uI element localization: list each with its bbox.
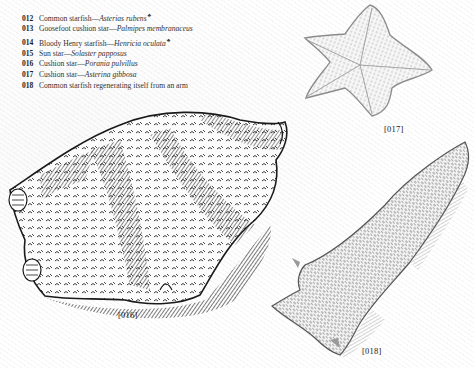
caption-number: 014 [22,38,39,49]
figure-label-017: [017] [384,124,403,134]
caption-common-name: Cushion star [39,70,77,79]
caption-latin-name: Palmipes membranaceus [117,24,193,33]
caption-item-014: 014Bloody Henry starfish—Henricia oculat… [22,35,193,49]
caption-latin-name: Henricia oculata [114,38,166,47]
caption-number: 013 [22,24,39,35]
caption-number: 016 [22,59,39,70]
caption-common-name: Common starfish regenerating itself from… [39,81,188,90]
caption-common-name: Cushion star [39,59,77,68]
caption-item-012: 012Common starfish—Asterias rubens♣ [22,10,193,24]
caption-dash: — [109,24,117,33]
caption-number: 017 [22,70,39,81]
species-status-icon: ♣ [167,37,171,43]
caption-common-name: Bloody Henry starfish [39,38,107,47]
caption-latin-name: Porania pulvillus [85,59,138,68]
figure-017-cushion-star [305,5,432,116]
caption-item-018: 018Common starfish regenerating itself f… [22,81,193,92]
caption-item-015: 015Sun star—Solaster papposus [22,49,193,60]
caption-item-017: 017Cushion star—Asterina gibbosa [22,70,193,81]
caption-number: 018 [22,81,39,92]
caption-item-013: 013Goosefoot cushion star—Palmipes membr… [22,24,193,35]
caption-list: 012Common starfish—Asterias rubens♣ 013G… [22,10,193,91]
figure-label-016: [016] [118,310,137,320]
figure-label-018: [018] [362,346,381,356]
caption-number: 012 [22,14,39,25]
caption-number: 015 [22,49,39,60]
figure-018-regenerating-starfish [272,142,468,358]
caption-latin-name: Solaster papposus [71,49,126,58]
caption-common-name: Goosefoot cushion star [39,24,109,33]
figure-016-cushion-star [9,112,287,318]
caption-item-016: 016Cushion star—Porania pulvillus [22,59,193,70]
caption-common-name: Common starfish [39,14,92,23]
caption-dash: — [92,14,100,23]
species-status-icon: ♣ [148,12,152,18]
caption-dash: — [77,70,85,79]
caption-dash: — [107,38,115,47]
caption-common-name: Sun star [39,49,64,58]
caption-dash: — [77,59,85,68]
caption-latin-name: Asterias rubens [99,14,146,23]
caption-latin-name: Asterina gibbosa [85,70,137,79]
